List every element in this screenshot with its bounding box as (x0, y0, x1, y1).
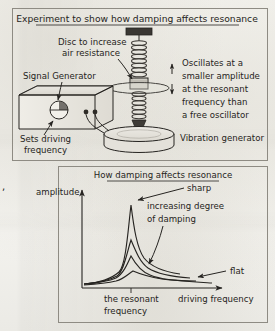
resonant-frequency-label-line1: the resonant (104, 294, 159, 304)
right-note-line-4: frequency than (182, 97, 247, 107)
curve-flat (84, 271, 212, 285)
disc-label-line2: air resistance (62, 48, 120, 58)
sets-driving-label-line2: frequency (24, 145, 67, 155)
annotation-damping-line1: increasing degree (147, 201, 224, 211)
disc-label-line1: Disc to increase (58, 37, 127, 47)
right-note-line-5: a free oscillator (182, 110, 249, 120)
annotation-flat-arrow (198, 271, 226, 277)
annotation-sharp-text: sharp (187, 183, 211, 193)
sets-driving-label-line1: Sets driving (20, 134, 71, 144)
annotation-damping-line2: of damping (147, 214, 196, 224)
annotation-flat-text: flat (230, 266, 245, 276)
right-note-line-2: smaller amplitude (182, 71, 260, 81)
figure-root: Experiment to show how damping affects r… (0, 0, 275, 331)
y-axis-label: amplitude (36, 187, 79, 197)
curve-moderate (84, 240, 190, 284)
spring-lower (132, 92, 146, 119)
top-panel-title: Experiment to show how damping affects r… (16, 13, 258, 25)
resonant-frequency-label-line2: frequency (104, 306, 147, 316)
right-note-line-1: Oscillates at a (182, 58, 243, 68)
margin-mark: , (2, 181, 5, 192)
right-note-line-3: at the resonant (182, 84, 249, 94)
chart-title: How damping affects resonance (94, 170, 232, 180)
x-axis-label: driving frequency (178, 294, 254, 304)
vibration-generator-base (104, 127, 174, 153)
annotation-damping-arrow (149, 226, 163, 264)
curve-heavy (84, 256, 196, 284)
spring-upper (132, 41, 147, 77)
annotation-sharp-arrow (138, 188, 184, 200)
disc-leader-arrow (118, 59, 132, 79)
top-panel-title-text: Experiment to show how damping affects r… (16, 13, 258, 24)
clamp-bar (126, 28, 152, 41)
signal-generator-label: Signal Generator (23, 71, 96, 81)
resonance-chart: How damping affects resonance amplitude … (36, 170, 254, 316)
frequency-dial[interactable] (50, 101, 68, 119)
signal-generator-box (19, 86, 113, 133)
vibration-generator-label: Vibration generator (180, 133, 264, 143)
